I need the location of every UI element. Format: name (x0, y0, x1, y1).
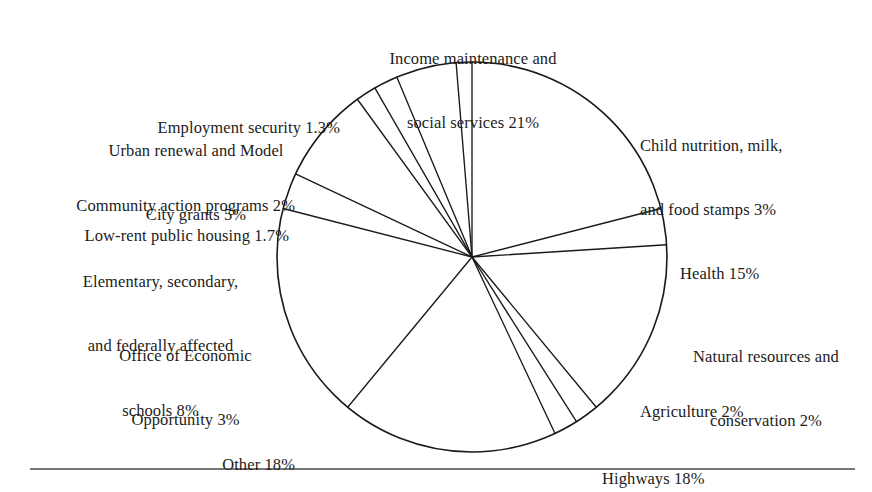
label-agriculture-line1: Agriculture 2% (640, 401, 850, 422)
label-income-maintenance-line1: Income maintenance and (303, 48, 643, 69)
label-health-line1: Health 15% (680, 263, 870, 284)
label-other: Other 18% (120, 411, 295, 492)
label-highways-line1: Highways 18% (602, 468, 822, 489)
label-income-maintenance: Income maintenance and social services 2… (303, 5, 643, 177)
label-child-nutrition-line1: Child nutrition, milk, (640, 135, 872, 156)
label-highways: Highways 18% (602, 425, 822, 492)
label-other-line1: Other 18% (120, 454, 295, 475)
label-child-nutrition-line2: and food stamps 3% (640, 199, 872, 220)
label-schools-line1: Elementary, secondary, (48, 271, 273, 292)
label-office-economic-opportunity-line1: Office of Economic (88, 345, 283, 366)
label-income-maintenance-line2: social services 21% (303, 112, 643, 133)
